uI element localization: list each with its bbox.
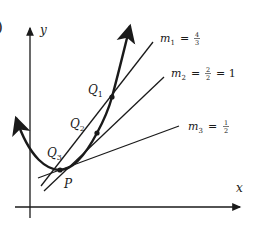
partial-figure-label: ) <box>0 18 3 36</box>
point-p <box>57 167 62 172</box>
svg-text:=: = <box>180 32 189 45</box>
secant-line-m2 <box>44 77 164 191</box>
y-axis-label: y <box>39 23 47 37</box>
point-label-q2: Q2 <box>70 117 85 133</box>
point-label-q3: Q3 <box>47 146 62 162</box>
point-label-q1: Q1 <box>88 83 103 99</box>
curve <box>16 118 60 170</box>
secant-slope-diagram: ) y x Q1 Q2 Q3 P m1 = 4 3 m2 = 2 <box>0 0 255 225</box>
svg-text:=: = <box>208 120 217 133</box>
slope-label-m1: m1 = 4 3 <box>160 31 200 47</box>
svg-text:2: 2 <box>224 127 228 135</box>
slope-label-m2: m2 = 2 2 = 1 <box>171 66 236 82</box>
slope-label-m3: m3 = 1 2 <box>188 119 229 135</box>
x-axis-label: x <box>236 181 243 195</box>
svg-text:m1: m1 <box>160 32 175 47</box>
point-q1 <box>109 94 114 99</box>
svg-text:3: 3 <box>195 39 199 47</box>
secant-line-m1 <box>41 42 153 186</box>
svg-text:2: 2 <box>206 74 210 82</box>
svg-text:m2: m2 <box>171 67 186 82</box>
svg-text:m3: m3 <box>188 120 203 135</box>
point-label-p: P <box>63 177 73 191</box>
svg-text:= 1: = 1 <box>216 67 236 80</box>
point-q2 <box>94 130 99 135</box>
svg-text:=: = <box>191 67 200 80</box>
